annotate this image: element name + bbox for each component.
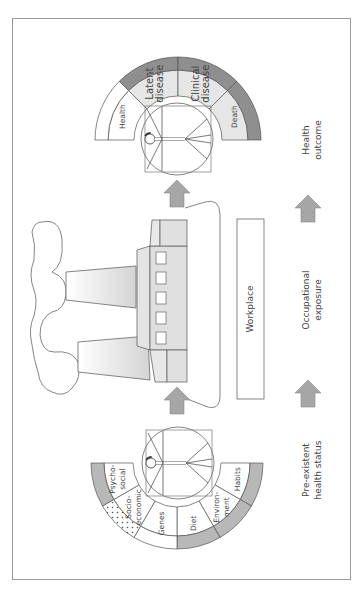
- stage-label-outcome: Health outcome: [301, 120, 323, 160]
- svg-text:outcome: outcome: [313, 120, 323, 160]
- up-arrow-icon: [295, 195, 321, 222]
- segment-label: ment: [222, 497, 231, 517]
- factory-icon: [30, 201, 220, 407]
- segment-label: Socio-: [124, 495, 133, 518]
- building-annex-roof: [150, 220, 160, 246]
- segment-label: social: [118, 468, 127, 489]
- segment-label: Habits: [233, 467, 242, 491]
- up-arrow-icon: [164, 180, 190, 207]
- workplace-label: Workplace: [245, 285, 255, 332]
- segment-label: disease: [154, 65, 165, 103]
- human-figure-icon: [142, 427, 214, 499]
- building-roof: [137, 246, 150, 350]
- figure-head: [145, 134, 155, 144]
- stage-label-exposure: Occupational exposure: [301, 270, 323, 329]
- svg-text:exposure: exposure: [313, 279, 323, 321]
- svg-text:health status: health status: [313, 440, 323, 499]
- figure-head: [146, 458, 156, 468]
- building-annex-roof: [150, 350, 167, 382]
- segment-label: Diet: [189, 516, 198, 531]
- smoke-cloud-icon: [30, 221, 79, 394]
- segment-label: Death: [230, 105, 239, 128]
- segment-label: Health: [118, 104, 127, 129]
- up-arrow-icon: [164, 387, 190, 414]
- factory-ground: [185, 201, 220, 407]
- factory-window: [156, 312, 166, 324]
- factory-window: [156, 332, 166, 344]
- human-figure-icon: [141, 103, 213, 175]
- segment-label: disease: [200, 65, 211, 103]
- factory-window: [156, 272, 166, 284]
- svg-text:Health: Health: [301, 125, 311, 155]
- factory-window: [156, 292, 166, 304]
- building-main: [150, 246, 187, 350]
- up-arrow-icon: [295, 380, 321, 407]
- segment-label: Environ-: [212, 491, 221, 522]
- svg-text:Pre-existent: Pre-existent: [301, 443, 311, 497]
- factory-window: [156, 252, 166, 264]
- segment-label: economic: [134, 489, 143, 525]
- occupational-health-diagram: HealthLatentdiseaseClinicaldiseaseDeath …: [0, 0, 362, 595]
- segment-label: Genes: [157, 511, 166, 535]
- chimney: [66, 266, 136, 308]
- segment-label: Psycho-: [108, 464, 117, 493]
- building-annex: [160, 220, 187, 246]
- building-annex: [167, 350, 187, 382]
- svg-text:Occupational: Occupational: [301, 270, 311, 329]
- stage-label-status: Pre-existent health status: [301, 440, 323, 499]
